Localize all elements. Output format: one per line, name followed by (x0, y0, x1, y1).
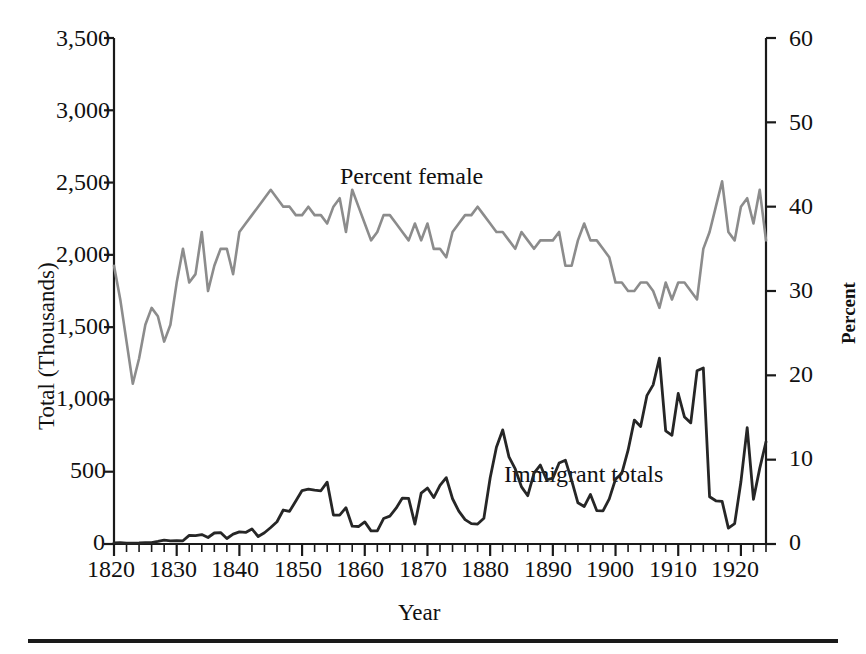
footer-rule (28, 639, 838, 643)
chart-figure: Total (Thousands) Percent Year 3,500 3,0… (0, 0, 866, 654)
x-axis-ticks (114, 544, 766, 556)
series-line-immigrant-totals (114, 358, 766, 543)
right-axis-ticks (766, 38, 776, 544)
series-line-percent-female (114, 181, 766, 383)
plot-area (0, 0, 866, 654)
left-axis-ticks (104, 38, 114, 544)
